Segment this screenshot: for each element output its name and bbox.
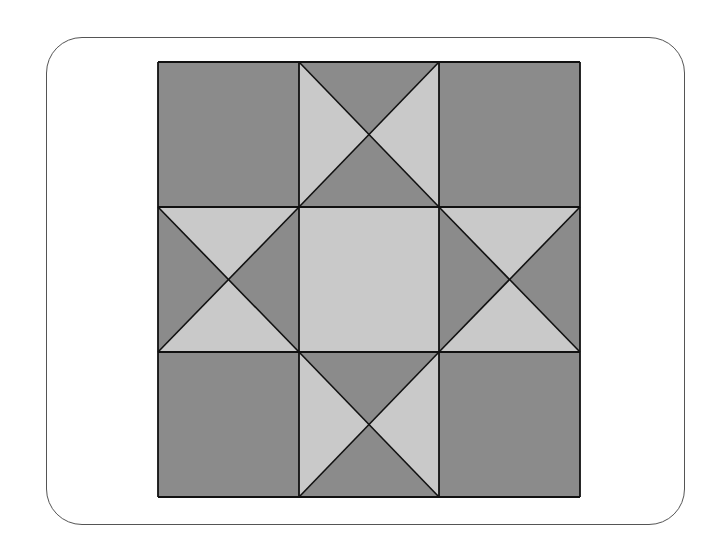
quilt-block-diagram <box>0 0 726 552</box>
quilt-square <box>299 207 439 352</box>
quilt-square <box>439 62 580 207</box>
quilt-square <box>439 352 580 497</box>
quilt-square <box>158 352 299 497</box>
quilt-square <box>158 62 299 207</box>
